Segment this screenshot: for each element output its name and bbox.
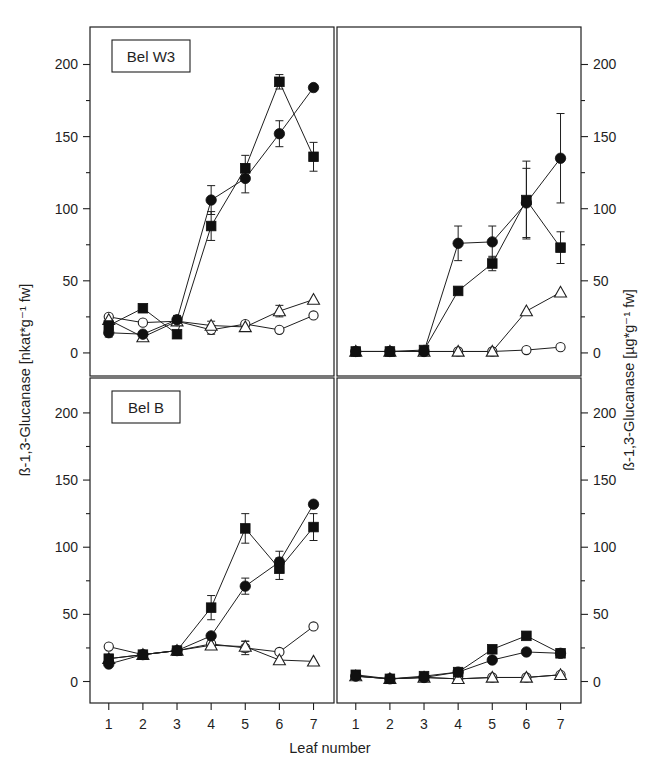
panel-label-top: Bel W3 xyxy=(112,40,190,72)
datapoint-top-left-open-circle-x2 xyxy=(138,318,147,327)
datapoint-bottom-right-filled-circle-x4 xyxy=(453,667,463,677)
datapoint-top-right-filled-circle-x3 xyxy=(419,346,429,356)
datapoint-bottom-right-filled-circle-x6 xyxy=(521,647,531,657)
y-ticklabel-top-0: 0 xyxy=(593,345,601,361)
chart-svg: 0501001502000501001502000501001502000501… xyxy=(0,0,659,771)
datapoint-bottom-right-filled-circle-x7 xyxy=(555,648,565,658)
figure-root: 0501001502000501001502000501001502000501… xyxy=(0,0,659,771)
y-ticklabel-bottom-150: 150 xyxy=(55,472,79,488)
datapoint-top-right-filled-square-x7 xyxy=(556,243,566,253)
y-ticklabel-top-100: 100 xyxy=(55,201,79,217)
y-axis-title-right: ß-1,3-Glucanase [µg*g⁻¹ fw] xyxy=(621,289,637,471)
y-ticklabel-top-50: 50 xyxy=(62,273,78,289)
datapoint-top-left-filled-square-x3 xyxy=(172,329,182,339)
datapoint-top-left-filled-square-x6 xyxy=(275,77,285,87)
datapoint-top-left-filled-circle-x5 xyxy=(240,173,250,183)
datapoint-bottom-left-filled-circle-x4 xyxy=(206,631,216,641)
datapoint-top-right-filled-circle-x4 xyxy=(453,238,463,248)
y-ticklabel-bottom-50: 50 xyxy=(62,606,78,622)
datapoint-bottom-left-filled-circle-x5 xyxy=(240,581,250,591)
x-ticklabel-bottom-left-7: 7 xyxy=(310,716,318,732)
datapoint-top-left-filled-circle-x2 xyxy=(138,329,148,339)
datapoint-bottom-right-filled-circle-x2 xyxy=(385,674,395,684)
datapoint-top-right-filled-circle-x6 xyxy=(521,198,531,208)
x-ticklabel-bottom-left-6: 6 xyxy=(276,716,284,732)
x-ticklabel-bottom-right-3: 3 xyxy=(420,716,428,732)
panel-label-bottom: Bel B xyxy=(112,391,180,423)
datapoint-bottom-left-filled-circle-x3 xyxy=(172,645,182,655)
datapoint-top-right-open-circle-x7 xyxy=(556,343,565,352)
y-ticklabel-top-150: 150 xyxy=(55,129,79,145)
datapoint-top-right-filled-circle-x7 xyxy=(555,153,565,163)
datapoint-top-right-open-circle-x6 xyxy=(522,345,531,354)
datapoint-top-left-open-circle-x7 xyxy=(309,311,318,320)
datapoint-top-right-filled-square-x4 xyxy=(453,286,463,296)
datapoint-bottom-left-filled-circle-x1 xyxy=(104,659,114,669)
datapoint-bottom-right-filled-circle-x3 xyxy=(419,672,429,682)
datapoint-top-left-open-circle-x6 xyxy=(275,325,284,334)
datapoint-top-right-filled-circle-x2 xyxy=(385,346,395,356)
datapoint-bottom-left-filled-circle-x2 xyxy=(138,649,148,659)
datapoint-top-left-filled-square-x2 xyxy=(138,303,148,313)
y-ticklabel-bottom-100: 100 xyxy=(55,539,79,555)
datapoint-top-left-filled-circle-x4 xyxy=(206,195,216,205)
y-ticklabel-top-200: 200 xyxy=(593,56,617,72)
datapoint-top-right-filled-square-x5 xyxy=(487,259,497,269)
x-ticklabel-bottom-right-1: 1 xyxy=(352,716,360,732)
panel-label-bottom-text: Bel B xyxy=(128,399,164,416)
datapoint-bottom-left-filled-square-x5 xyxy=(240,524,250,534)
panel-label-top-text: Bel W3 xyxy=(127,48,175,65)
datapoint-bottom-right-filled-circle-x5 xyxy=(487,655,497,665)
x-ticklabel-bottom-right-7: 7 xyxy=(557,716,565,732)
datapoint-top-left-filled-square-x7 xyxy=(309,152,319,162)
y-ticklabel-bottom-0: 0 xyxy=(593,674,601,690)
x-ticklabel-bottom-right-6: 6 xyxy=(523,716,531,732)
y-ticklabel-bottom-100: 100 xyxy=(593,539,617,555)
datapoint-bottom-left-filled-circle-x7 xyxy=(308,499,318,509)
datapoint-bottom-left-open-circle-x7 xyxy=(309,622,318,631)
x-ticklabel-bottom-right-5: 5 xyxy=(488,716,496,732)
y-ticklabel-bottom-50: 50 xyxy=(593,606,609,622)
y-ticklabel-bottom-150: 150 xyxy=(593,472,617,488)
datapoint-top-left-filled-square-x4 xyxy=(206,221,216,231)
y-ticklabel-bottom-200: 200 xyxy=(55,405,79,421)
x-ticklabel-bottom-left-4: 4 xyxy=(207,716,215,732)
datapoint-bottom-left-filled-square-x7 xyxy=(309,522,319,532)
y-ticklabel-bottom-200: 200 xyxy=(593,405,617,421)
y-ticklabel-top-200: 200 xyxy=(55,56,79,72)
y-axis-title-left: ß-1,3-Glucanase [nkat*g⁻¹ fw] xyxy=(17,284,33,477)
y-ticklabel-top-50: 50 xyxy=(593,273,609,289)
datapoint-top-right-filled-circle-x1 xyxy=(351,346,361,356)
x-ticklabel-bottom-left-5: 5 xyxy=(241,716,249,732)
datapoint-bottom-left-open-circle-x1 xyxy=(104,642,113,651)
x-ticklabel-bottom-left-1: 1 xyxy=(105,716,113,732)
datapoint-top-left-filled-circle-x6 xyxy=(274,129,284,139)
x-ticklabel-bottom-right-2: 2 xyxy=(386,716,394,732)
datapoint-top-left-filled-circle-x7 xyxy=(308,82,318,92)
datapoint-top-left-filled-circle-x1 xyxy=(104,328,114,338)
datapoint-top-right-filled-circle-x5 xyxy=(487,237,497,247)
y-ticklabel-top-100: 100 xyxy=(593,201,617,217)
datapoint-bottom-right-filled-square-x6 xyxy=(522,631,532,641)
x-ticklabel-bottom-left-3: 3 xyxy=(173,716,181,732)
x-ticklabel-bottom-right-4: 4 xyxy=(454,716,462,732)
datapoint-bottom-left-filled-square-x4 xyxy=(206,603,216,613)
datapoint-top-left-filled-circle-x3 xyxy=(172,315,182,325)
datapoint-top-left-filled-square-x5 xyxy=(240,164,250,174)
x-ticklabel-bottom-left-2: 2 xyxy=(139,716,147,732)
y-ticklabel-bottom-0: 0 xyxy=(70,674,78,690)
datapoint-bottom-left-filled-circle-x6 xyxy=(274,557,284,567)
y-ticklabel-top-150: 150 xyxy=(593,129,617,145)
x-axis-title: Leaf number xyxy=(289,740,371,756)
datapoint-bottom-right-filled-square-x5 xyxy=(487,644,497,654)
y-ticklabel-top-0: 0 xyxy=(70,345,78,361)
datapoint-bottom-right-filled-circle-x1 xyxy=(351,671,361,681)
